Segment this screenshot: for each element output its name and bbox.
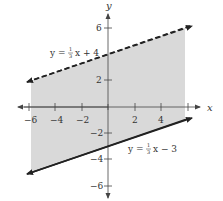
svg-text:3: 3 bbox=[69, 53, 72, 59]
inequality-graph: −6 −4 −2 2 4 6 2 −2 −4 −6 x y y = 1 3 x … bbox=[0, 0, 223, 201]
x-tick-label: 2 bbox=[132, 115, 138, 125]
upper-equation-label: y = 1 3 x + 4 bbox=[49, 46, 99, 59]
y-tick-label: 2 bbox=[96, 75, 102, 85]
y-tick-label: −2 bbox=[90, 128, 103, 138]
lower-equation-label: y = 1 3 x − 3 bbox=[127, 142, 177, 155]
x-tick-label: −6 bbox=[24, 115, 38, 125]
svg-text:x + 4: x + 4 bbox=[75, 48, 99, 58]
y-tick-label: −4 bbox=[90, 154, 104, 164]
x-tick-label: −4 bbox=[50, 115, 64, 125]
svg-text:y =: y = bbox=[49, 48, 66, 58]
y-axis-label: y bbox=[105, 0, 112, 11]
svg-text:x − 3: x − 3 bbox=[153, 144, 177, 154]
y-tick-label: −6 bbox=[90, 181, 104, 191]
x-axis-label: x bbox=[207, 102, 213, 113]
svg-text:3: 3 bbox=[147, 149, 150, 155]
svg-text:1: 1 bbox=[147, 142, 150, 148]
svg-text:1: 1 bbox=[69, 46, 72, 52]
x-tick-label: 4 bbox=[158, 115, 164, 125]
y-tick-label: 6 bbox=[96, 23, 102, 33]
x-tick-label: −2 bbox=[76, 115, 89, 125]
svg-text:y =: y = bbox=[127, 144, 144, 154]
